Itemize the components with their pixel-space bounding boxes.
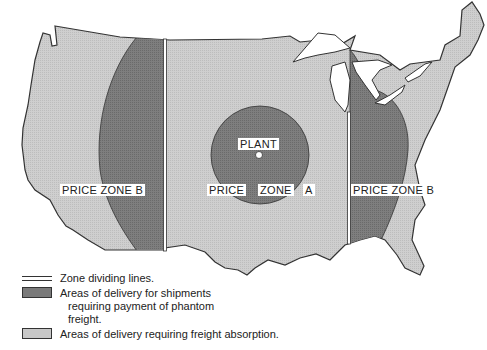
zone-b-west-label: PRICE ZONE B	[60, 184, 145, 196]
dark-fill-swatch-icon	[22, 287, 52, 298]
legend-item-zone-lines: Zone dividing lines.	[22, 272, 279, 285]
zone-b-east-label: PRICE ZONE B	[351, 184, 436, 196]
double-line-icon	[22, 276, 52, 281]
zone-a-zone-label: ZONE	[258, 184, 294, 196]
legend-item-phantom-freight: Areas of delivery for shipments requirin…	[22, 287, 279, 326]
zone-a-price-label: PRICE	[207, 184, 246, 196]
zone-a-letter-label: A	[303, 184, 315, 196]
legend: Zone dividing lines. Areas of delivery f…	[22, 272, 279, 343]
legend-item-freight-absorption: Areas of delivery requiring freight abso…	[22, 328, 279, 341]
light-fill-swatch-icon	[22, 328, 52, 339]
plant-icon	[256, 152, 263, 159]
plant-label: PLANT	[238, 138, 279, 150]
